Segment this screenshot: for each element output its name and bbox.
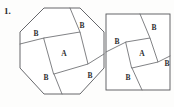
square-label-b-left: B — [114, 37, 119, 46]
problem-number-label: 1. — [4, 6, 11, 16]
octagon-label-b-left: B — [33, 29, 38, 38]
square-label-a: A — [139, 49, 145, 58]
square-outline — [106, 14, 170, 90]
square-diagram: A B B B B — [104, 12, 172, 92]
square-label-b-upper-right: B — [151, 23, 156, 32]
figure-container: 1. A B B B B A B B B B — [0, 0, 174, 107]
square-label-b-right: B — [164, 59, 169, 68]
square-label-b-lower-left: B — [125, 73, 130, 82]
octagon-label-a: A — [61, 49, 67, 58]
octagon-label-b-upper-right: B — [79, 21, 84, 30]
octagon-label-b-right: B — [87, 71, 92, 80]
octagon-diagram: A B B B B — [18, 6, 106, 98]
octagon-label-b-lower-left: B — [43, 73, 48, 82]
